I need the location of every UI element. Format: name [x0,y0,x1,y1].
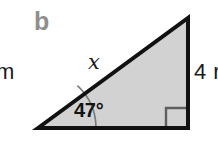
left-clipped-text: m [0,61,14,83]
right-side-length-label: 4 r [194,61,218,83]
part-label-b: b [34,9,49,34]
figure-container: b x 47° 4 r m [0,0,218,143]
angle-measure-label: 47° [74,100,103,120]
hypotenuse-length-label: x [88,52,100,73]
triangle-diagram [0,0,218,143]
